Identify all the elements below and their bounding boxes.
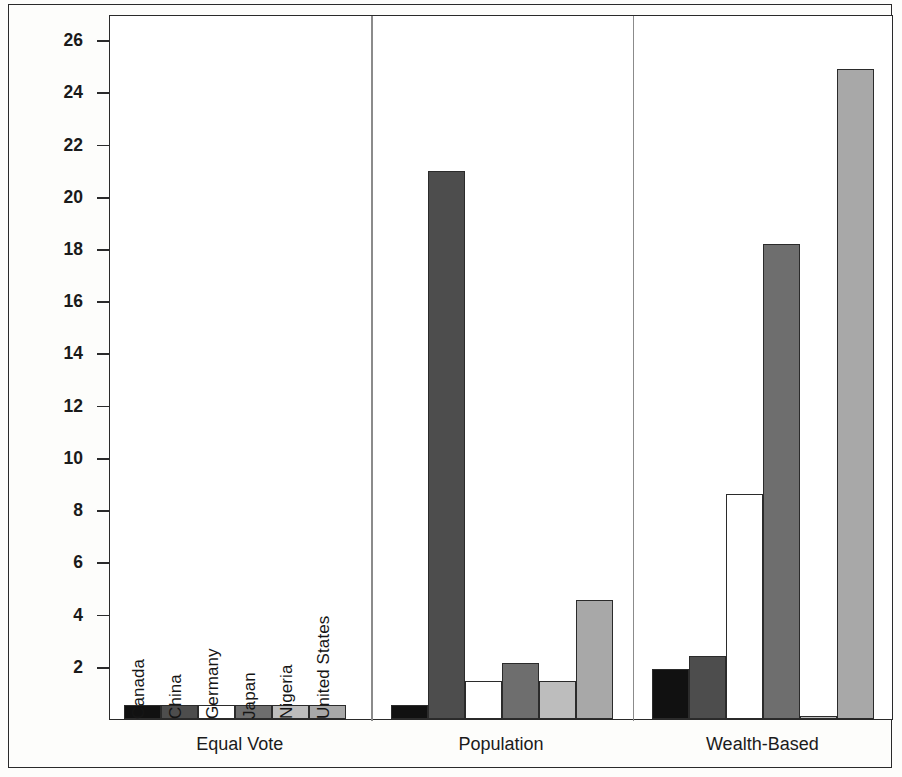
y-tick-mark xyxy=(97,510,109,512)
bar xyxy=(391,705,428,719)
y-tick-label: 16 xyxy=(43,291,83,312)
y-tick-label: 22 xyxy=(43,135,83,156)
series-label-canada: Canada xyxy=(129,659,149,719)
group-label-wealth-based: Wealth-Based xyxy=(632,734,893,755)
bar xyxy=(652,669,689,719)
y-tick-mark xyxy=(97,458,109,460)
chart-page: Percentage of UNGA Vote 2468101214161820… xyxy=(0,0,902,777)
y-tick-label: 20 xyxy=(43,187,83,208)
y-tick-label: 6 xyxy=(43,552,83,573)
series-label-japan: Japan xyxy=(240,672,260,719)
group-divider xyxy=(633,16,634,721)
bar xyxy=(837,69,874,719)
y-tick-mark xyxy=(97,667,109,669)
bar xyxy=(465,681,502,719)
bar xyxy=(726,494,763,719)
group-divider xyxy=(371,16,372,721)
bar xyxy=(428,171,465,719)
y-tick-label: 10 xyxy=(43,448,83,469)
y-tick-label: 8 xyxy=(43,500,83,521)
bar xyxy=(576,600,613,719)
y-tick-mark xyxy=(97,145,109,147)
series-label-china: China xyxy=(166,674,186,719)
y-tick-label: 18 xyxy=(43,239,83,260)
y-tick-mark xyxy=(97,249,109,251)
y-tick-mark xyxy=(97,615,109,617)
series-label-nigeria: Nigeria xyxy=(277,664,297,719)
group-label-equal-vote: Equal Vote xyxy=(109,734,370,755)
y-tick-mark xyxy=(97,92,109,94)
y-tick-label: 2 xyxy=(43,657,83,678)
bar xyxy=(502,663,539,719)
y-tick-mark xyxy=(97,40,109,42)
bar xyxy=(689,656,726,719)
y-tick-mark xyxy=(97,406,109,408)
series-label-united-states: United States xyxy=(314,616,334,719)
y-tick-label: 26 xyxy=(43,30,83,51)
y-tick-label: 24 xyxy=(43,82,83,103)
group-label-population: Population xyxy=(370,734,631,755)
y-tick-label: 14 xyxy=(43,343,83,364)
figure-frame: Percentage of UNGA Vote 2468101214161820… xyxy=(8,4,892,768)
series-label-germany: Germany xyxy=(203,648,223,719)
bar xyxy=(539,681,576,719)
y-tick-mark xyxy=(97,562,109,564)
y-axis-title: Percentage of UNGA Vote xyxy=(7,0,26,235)
y-tick-mark xyxy=(97,301,109,303)
y-tick-mark xyxy=(97,353,109,355)
bar xyxy=(800,716,837,719)
y-tick-mark xyxy=(97,197,109,199)
plot-area: CanadaChinaGermanyJapanNigeriaUnited Sta… xyxy=(109,15,893,720)
bar xyxy=(763,244,800,719)
y-tick-label: 4 xyxy=(43,605,83,626)
y-tick-label: 12 xyxy=(43,396,83,417)
